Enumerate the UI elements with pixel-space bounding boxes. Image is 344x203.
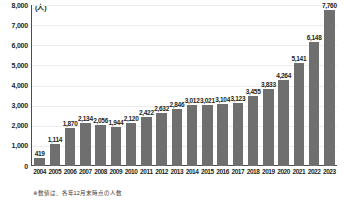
x-axis-tick-label: 2018	[246, 167, 261, 179]
y-axis-tick-label: 5,000	[11, 62, 28, 69]
x-axis-tick-label: 2005	[47, 167, 62, 179]
y-axis-tick-label: 4,000	[11, 82, 28, 89]
bar-slot: 3,455	[246, 5, 261, 166]
x-axis-tick-label: 2022	[307, 167, 322, 179]
bar: 6,148	[309, 42, 319, 166]
bar-value-label: 3,012	[185, 97, 200, 104]
bar: 2,056	[95, 125, 105, 166]
bar: 2,846	[172, 109, 182, 166]
bar-value-label: 4,264	[276, 72, 291, 79]
bar-slot: 3,012	[185, 5, 200, 166]
bar: 2,422	[141, 117, 151, 166]
y-axis-tick-label: 2,000	[11, 122, 28, 129]
bar-value-label: 2,632	[154, 105, 169, 112]
x-axis-tick-label: 2015	[200, 167, 215, 179]
bar-slot: 3,104	[215, 5, 230, 166]
bar: 3,833	[263, 89, 273, 166]
plot-area: 4191,1141,8702,1342,0561,9442,1202,4222,…	[32, 5, 337, 166]
x-axis-tick-label: 2014	[185, 167, 200, 179]
bar-value-label: 3,021	[200, 97, 215, 104]
bar-slot: 1,114	[47, 5, 62, 166]
bar-slot: 3,021	[200, 5, 215, 166]
bar: 2,120	[126, 123, 136, 166]
x-axis-tick-label: 2023	[322, 167, 337, 179]
bar-slot: 5,141	[291, 5, 306, 166]
x-axis-tick-label: 2004	[32, 167, 47, 179]
bar-slot: 7,760	[322, 5, 337, 166]
x-axis-tick-label: 2017	[230, 167, 245, 179]
bar: 4,264	[278, 80, 288, 166]
bar-value-label: 419	[35, 150, 45, 157]
bar-slot: 6,148	[307, 5, 322, 166]
bar-slot: 1,870	[63, 5, 78, 166]
bar: 1,870	[65, 128, 75, 166]
y-axis-tick-label: 7,000	[11, 22, 28, 29]
bar-slot: 2,120	[124, 5, 139, 166]
bar-value-label: 5,141	[291, 55, 306, 62]
x-axis-tick-label: 2016	[215, 167, 230, 179]
x-axis-tick-label: 2011	[139, 167, 154, 179]
bar-value-label: 3,104	[215, 96, 230, 103]
bar: 2,632	[156, 113, 166, 166]
bar: 1,944	[111, 127, 121, 166]
bar-slot: 2,422	[139, 5, 154, 166]
y-axis-labels: 8,0007,0006,0005,0004,0003,0002,0001,000…	[0, 0, 30, 165]
x-axis-tick-label: 2013	[169, 167, 184, 179]
bar: 3,455	[248, 96, 258, 166]
bar-value-label: 1,114	[48, 136, 62, 143]
x-axis-tick-label: 2006	[63, 167, 78, 179]
x-axis-tick-label: 2010	[124, 167, 139, 179]
x-axis-tick-label: 2009	[108, 167, 123, 179]
x-axis-tick-label: 2007	[78, 167, 93, 179]
bar-slot: 3,833	[261, 5, 276, 166]
bar: 7,760	[324, 10, 334, 166]
bar-chart: 8,0007,0006,0005,0004,0003,0002,0001,000…	[0, 0, 344, 203]
bar-value-label: 7,760	[322, 2, 337, 9]
bar-series: 4191,1141,8702,1342,0561,9442,1202,4222,…	[32, 5, 337, 166]
bar-value-label: 1,870	[63, 120, 78, 127]
bar-value-label: 3,833	[261, 81, 276, 88]
bar-value-label: 2,134	[78, 115, 93, 122]
x-axis-labels: 2004200520062007200820092010201120122013…	[32, 167, 337, 179]
bar-value-label: 2,846	[169, 101, 184, 108]
bar-slot: 2,846	[169, 5, 184, 166]
x-axis-tick-label: 2020	[276, 167, 291, 179]
x-axis-tick-label: 2019	[261, 167, 276, 179]
bar-slot: 3,123	[230, 5, 245, 166]
x-axis-tick-label: 2021	[291, 167, 306, 179]
bar-value-label: 1,944	[108, 119, 123, 126]
bar-slot: 419	[32, 5, 47, 166]
bar: 1,114	[50, 144, 60, 166]
bar: 2,134	[80, 123, 90, 166]
bar-value-label: 6,148	[307, 34, 322, 41]
bar-value-label: 3,455	[246, 88, 261, 95]
bar: 3,104	[217, 104, 227, 166]
bar: 3,123	[233, 103, 243, 166]
bar-value-label: 2,056	[93, 117, 108, 124]
bar: 419	[34, 158, 44, 166]
x-axis-tick-label: 2012	[154, 167, 169, 179]
bar-value-label: 2,120	[124, 115, 139, 122]
bar: 5,141	[294, 63, 304, 166]
bar-slot: 1,944	[108, 5, 123, 166]
chart-footnote: ※数値は、各年12月末時点の人数	[33, 190, 122, 197]
bar-slot: 2,056	[93, 5, 108, 166]
y-axis-tick-label: 0	[24, 163, 28, 170]
bar-value-label: 3,123	[230, 95, 245, 102]
bar-value-label: 2,422	[139, 109, 154, 116]
y-axis-tick-label: 8,000	[11, 2, 28, 9]
y-axis-tick-label: 3,000	[11, 102, 28, 109]
bar: 3,012	[187, 105, 197, 166]
bar-slot: 2,632	[154, 5, 169, 166]
y-axis-tick-label: 1,000	[11, 142, 28, 149]
y-axis-tick-label: 6,000	[11, 42, 28, 49]
bar-slot: 4,264	[276, 5, 291, 166]
bar: 3,021	[202, 105, 212, 166]
bar-slot: 2,134	[78, 5, 93, 166]
x-axis-tick-label: 2008	[93, 167, 108, 179]
